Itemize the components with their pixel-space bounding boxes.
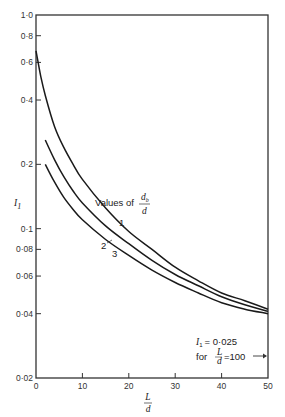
y-axis-label: I1	[13, 198, 21, 211]
x-tick-label: 30	[170, 381, 180, 391]
x-tick-label: 10	[78, 381, 88, 391]
curve-label-2: 2	[101, 240, 106, 251]
y-tick-label: 0·04	[16, 309, 33, 319]
svg-text:for: for	[196, 351, 207, 362]
curve-2	[45, 140, 268, 311]
curve-3	[45, 164, 268, 313]
svg-text:db: db	[141, 192, 149, 203]
plot-frame	[36, 15, 268, 378]
y-tick-label: 0·6	[21, 57, 34, 67]
y-tick-label: 0·08	[16, 244, 33, 254]
x-axis-label: L d	[144, 392, 152, 414]
curve-label-3: 3	[112, 248, 117, 259]
svg-text:=100: =100	[224, 351, 245, 362]
x-axis: 01020304050	[34, 373, 273, 391]
annotation-note: I1= 0·025 for L d =100	[195, 336, 267, 366]
y-tick-label: 0·02	[16, 373, 33, 383]
x-tick-label: 40	[217, 381, 227, 391]
svg-text:d: d	[217, 356, 222, 366]
svg-text:Values of: Values of	[95, 197, 134, 208]
svg-text:d: d	[142, 206, 147, 216]
legend-title: Values of db d	[95, 192, 150, 216]
curves	[36, 51, 268, 314]
y-tick-label: 0·2	[21, 159, 34, 169]
svg-text:L: L	[144, 392, 150, 402]
chart: 0·020·040·060·080·10·20·40·60·81·0 01020…	[0, 0, 285, 417]
svg-text:d: d	[146, 404, 151, 414]
y-tick-label: 1·0	[21, 10, 34, 20]
curve-label-1: 1	[119, 217, 124, 228]
y-axis: 0·020·040·060·080·10·20·40·60·81·0	[16, 10, 41, 383]
x-tick-label: 50	[263, 381, 273, 391]
y-tick-label: 0·8	[21, 31, 34, 41]
svg-text:I1= 0·025: I1= 0·025	[195, 336, 237, 348]
x-tick-label: 20	[124, 381, 134, 391]
y-tick-label: 0·1	[21, 224, 34, 234]
x-tick-label: 0	[34, 381, 39, 391]
y-tick-label: 0·4	[21, 95, 34, 105]
y-tick-label: 0·06	[16, 271, 33, 281]
